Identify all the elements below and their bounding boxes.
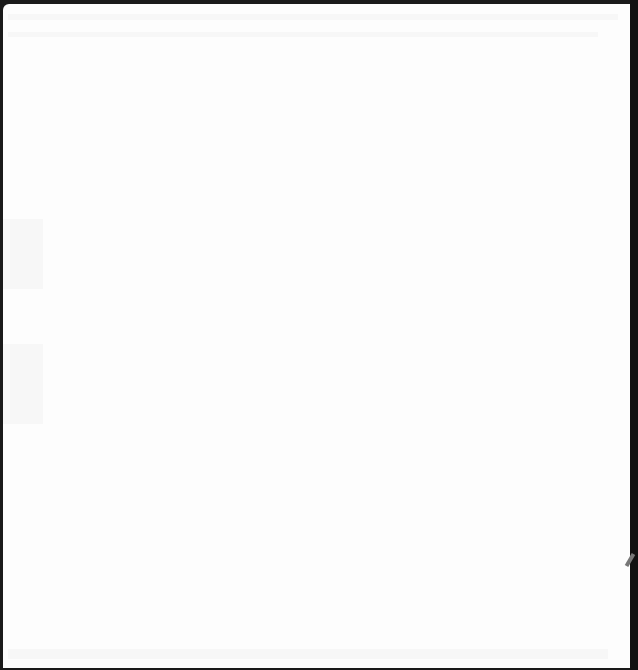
bleed-through-block <box>3 344 43 424</box>
bleed-through-block <box>3 219 43 289</box>
bleed-through-line <box>8 649 608 659</box>
scan-border <box>630 0 638 670</box>
blank-page <box>3 4 630 668</box>
bleed-through-line <box>8 14 618 20</box>
bleed-through-line <box>8 32 598 37</box>
